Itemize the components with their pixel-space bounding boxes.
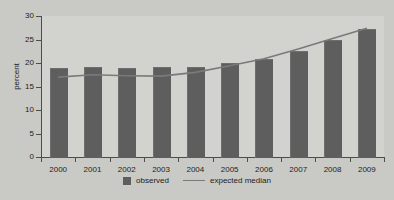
legend-entry-observed: observed: [123, 176, 169, 185]
x-tick-label: 2009: [350, 165, 384, 174]
y-tick-label: 25: [10, 36, 34, 44]
x-tick-label: 2008: [316, 165, 350, 174]
x-tick-mark: [75, 158, 76, 162]
line-series-expected-median: [41, 16, 384, 158]
x-tick-mark: [41, 158, 42, 162]
y-tick-label: 15: [10, 83, 34, 91]
legend-entry-expected-median: expected median: [183, 176, 271, 185]
y-tick-label: 5: [10, 130, 34, 138]
x-tick-mark: [144, 158, 145, 162]
line-swatch-icon: [183, 180, 205, 181]
y-tick-label: 10: [10, 106, 34, 114]
x-tick-label: 2002: [110, 165, 144, 174]
legend-label-observed: observed: [136, 176, 169, 185]
x-tick-mark: [384, 158, 385, 162]
x-tick-label: 2004: [178, 165, 212, 174]
y-tick-label: 0: [10, 153, 34, 161]
x-tick-mark: [247, 158, 248, 162]
x-tick-mark: [350, 158, 351, 162]
x-tick-label: 2005: [213, 165, 247, 174]
x-tick-mark: [178, 158, 179, 162]
x-tick-label: 2007: [281, 165, 315, 174]
chart-container: percent 051015202530 2000200120022003200…: [0, 0, 394, 200]
x-tick-label: 2000: [41, 165, 75, 174]
y-tick-label: 30: [10, 12, 34, 20]
y-axis-title: percent: [12, 49, 21, 105]
x-tick-label: 2001: [75, 165, 109, 174]
chart-legend: observed expected median: [0, 176, 394, 185]
x-tick-mark: [281, 158, 282, 162]
legend-label-expected-median: expected median: [210, 176, 271, 185]
y-tick-label: 20: [10, 59, 34, 67]
x-tick-mark: [213, 158, 214, 162]
x-tick-mark: [110, 158, 111, 162]
x-tick-mark: [315, 158, 316, 162]
bar-swatch-icon: [123, 177, 131, 185]
x-tick-label: 2006: [247, 165, 281, 174]
x-tick-label: 2003: [144, 165, 178, 174]
